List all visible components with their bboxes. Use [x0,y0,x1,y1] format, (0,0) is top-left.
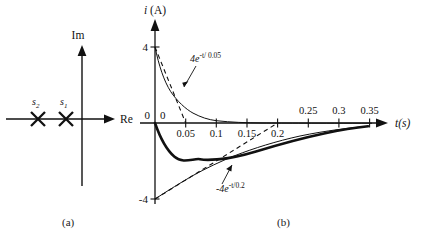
tick-label-t-005: 0.05 [177,128,195,139]
tick-label-t-02: 0.2 [271,128,284,139]
annotation-lower-curve: -4e-t/0.2 [216,165,245,194]
tick-label-t-01: 0.1 [210,128,223,139]
imaginary-axis-label: Im [72,29,85,41]
imaginary-axis [78,45,87,186]
caption-panel-a: (a) [62,216,74,228]
annotation-lower-text: -4e [216,183,229,194]
tick-label-i-4: 4 [143,41,149,53]
annotation-lower-exponent: -t/0.2 [229,181,245,190]
panel-b-response-chart: 0.05 0.1 0.15 0.2 0.25 0.3 0.35 4 -4 0 0… [136,4,446,219]
figure-root: s2 s1 Im Re [0,0,446,243]
tick-label-i-neg4: -4 [139,193,149,205]
real-axis-label: Re [120,113,133,125]
tick-label-t-035: 0.35 [360,105,378,116]
svg-text:4e-t/ 0.05: 4e-t/ 0.05 [190,51,221,64]
i-axis-title: i (A) [144,4,166,17]
origin-label-i: 0 [145,109,151,121]
real-axis [6,115,115,124]
tick-label-t-03: 0.3 [332,105,345,116]
t-axis-title: t(s) [395,117,411,130]
pole-label-s1: s1 [60,96,67,110]
annotation-upper-exponent: -t/ 0.05 [199,51,221,60]
annotation-upper-curve: 4e-t/ 0.05 [182,51,221,87]
tick-label-t-025: 0.25 [299,105,317,116]
caption-panel-b: (b) [277,216,290,228]
panel-a-pole-plot: s2 s1 Im Re [0,6,150,216]
pole-label-s2: s2 [32,96,40,110]
svg-text:-4e-t/0.2: -4e-t/0.2 [216,181,245,194]
origin-label-t: 0 [160,109,166,121]
